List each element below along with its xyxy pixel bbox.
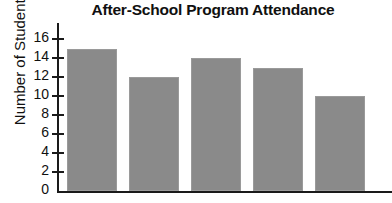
bar — [315, 96, 365, 191]
bar — [67, 49, 117, 192]
y-axis-line — [57, 23, 59, 193]
y-tick-label: 14 — [27, 48, 49, 64]
y-tick-mark — [52, 76, 64, 78]
y-tick-mark — [52, 57, 64, 59]
y-tick-label: 12 — [27, 67, 49, 83]
y-tick-label: 2 — [27, 162, 49, 178]
y-tick-mark — [52, 95, 64, 97]
y-tick-mark — [52, 114, 64, 116]
y-tick-label: 16 — [27, 29, 49, 45]
bar-chart-figure: After-School Program Attendance Number o… — [0, 0, 392, 203]
y-tick-mark — [52, 152, 64, 154]
x-axis-baseline — [57, 191, 392, 193]
y-tick-16: 16 — [57, 38, 69, 40]
y-tick-label: 0 — [27, 181, 49, 197]
bar — [191, 58, 241, 191]
y-tick-mark — [52, 171, 64, 173]
y-tick-label: 10 — [27, 86, 49, 102]
y-tick-mark — [52, 133, 64, 135]
bar — [253, 68, 303, 192]
bar — [129, 77, 179, 191]
y-axis-label: Number of Students — [11, 0, 28, 134]
plot-area: 0246810121416 — [57, 23, 392, 193]
y-tick-label: 6 — [27, 124, 49, 140]
y-tick-label: 4 — [27, 143, 49, 159]
y-tick-mark — [52, 38, 64, 40]
y-tick-label: 8 — [27, 105, 49, 121]
chart-title: After-School Program Attendance — [48, 1, 378, 19]
